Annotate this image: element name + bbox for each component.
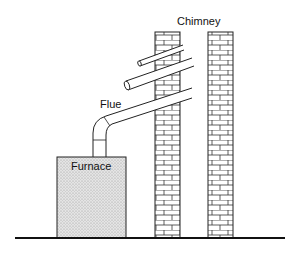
chimney-right-wall: [208, 32, 233, 238]
chimney-label: Chimney: [177, 15, 220, 27]
flue-label: Flue: [100, 98, 121, 110]
furnace-label: Furnace: [71, 160, 111, 172]
chimney: [155, 32, 233, 238]
furnace-chimney-diagram: [0, 0, 301, 253]
chimney-left-wall: [155, 32, 180, 238]
